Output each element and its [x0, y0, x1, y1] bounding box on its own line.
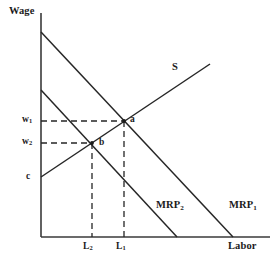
y-tick-label-w2: w2 — [22, 137, 32, 147]
y-axis-title: Wage — [9, 6, 34, 17]
y-tick-label-w1: w1 — [22, 115, 32, 125]
mrp2-curve-label: MRP2 — [156, 200, 184, 211]
mrp2-curve-sub: 2 — [180, 204, 184, 212]
point-a-label: a — [130, 115, 135, 125]
y-tick-base-w1: w — [22, 114, 29, 124]
mrp1-curve-sub: 1 — [253, 204, 257, 212]
x-tick-label-l2: L2 — [83, 242, 93, 252]
x-tick-sub-l1: 1 — [122, 244, 125, 251]
y-tick-base-w2: w — [22, 136, 29, 146]
diagram-canvas — [0, 0, 273, 258]
supply-curve-base: S — [172, 61, 178, 72]
wage-labor-diagram: Wage Labor w1 w2 c L2 L1 S MRP2 MRP1 a b — [0, 0, 273, 258]
x-tick-sub-l2: 2 — [89, 244, 92, 251]
mrp2-curve-base: MRP — [156, 199, 180, 210]
x-axis-title: Labor — [228, 241, 257, 252]
mrp1-curve — [41, 32, 233, 237]
point-b-marker — [90, 141, 94, 145]
y-tick-sub-w1: 1 — [29, 117, 32, 124]
y-tick-sub-w2: 2 — [29, 139, 32, 146]
mrp1-curve-base: MRP — [229, 199, 253, 210]
supply-curve-label: S — [172, 62, 178, 73]
point-a-marker — [122, 119, 126, 123]
y-tick-label-c: c — [26, 172, 30, 182]
x-tick-label-l1: L1 — [116, 242, 126, 252]
point-b-label: b — [99, 138, 104, 148]
mrp1-curve-label: MRP1 — [229, 200, 257, 211]
y-tick-base-c: c — [26, 171, 30, 181]
